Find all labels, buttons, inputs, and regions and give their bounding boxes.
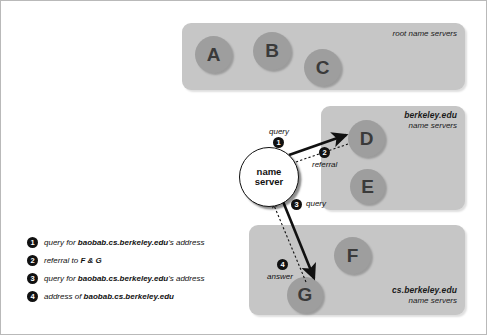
node-g: G	[287, 277, 323, 313]
arrow-badge-3: 3	[291, 199, 302, 210]
legend-text-3: query for baobab.cs.berkeley.edu's addre…	[44, 274, 204, 283]
panel-cs-berkeley-sub: name servers	[353, 296, 457, 305]
legend-row-1: 1 query for baobab.cs.berkeley.edu's add…	[27, 233, 204, 251]
node-c: C	[304, 49, 341, 86]
node-b: B	[253, 32, 291, 70]
legend-badge-3: 3	[27, 273, 38, 284]
arrow-badge-3-text: 3	[294, 200, 298, 209]
arrow-label-3-text: query	[306, 199, 326, 208]
legend-badge-1-text: 1	[30, 238, 34, 247]
legend-text-2: referral to F & G	[44, 256, 102, 265]
arrow-badge-2: 2	[319, 147, 330, 158]
arrow-badge-1-text: 1	[276, 138, 280, 147]
arrow-label-1-text: query	[269, 127, 289, 136]
arrow-label-2-text: referral	[312, 160, 337, 169]
node-a: A	[195, 36, 232, 73]
arrow-label-3: query	[306, 199, 326, 208]
node-a-label: A	[207, 44, 221, 66]
arrow-label-4-text: answer	[267, 272, 293, 281]
legend-text-4-pre: address of	[44, 292, 84, 301]
panel-root-label: root name servers	[361, 29, 457, 38]
legend-badge-4: 4	[27, 291, 38, 302]
name-server-line2: server	[255, 177, 284, 187]
legend-badge-1: 1	[27, 237, 38, 248]
legend-text-4-bold: baobab.cs.berkeley.edu	[84, 292, 174, 301]
node-f-label: F	[347, 245, 359, 267]
legend-text-1-bold: baobab.cs.berkeley.edu	[78, 238, 168, 247]
legend-text-3-post: 's address	[168, 274, 204, 283]
legend-text-3-pre: query for	[44, 274, 78, 283]
legend-row-4: 4 address of baobab.cs.berkeley.edu	[27, 287, 204, 305]
panel-cs-berkeley-label: cs.berkeley.edu name servers	[353, 286, 457, 305]
legend-badge-4-text: 4	[30, 292, 34, 301]
node-c-label: C	[316, 57, 330, 79]
arrow-label-4: answer	[267, 272, 293, 281]
legend-text-1: query for baobab.cs.berkeley.edu's addre…	[44, 238, 204, 247]
legend-badge-3-text: 3	[30, 274, 34, 283]
node-d-label: D	[360, 128, 374, 150]
legend-text-1-post: 's address	[168, 238, 204, 247]
legend-text-2-bold: F & G	[80, 256, 101, 265]
dns-query-diagram: root name servers A B C berkeley.edu nam…	[0, 0, 487, 335]
node-e: E	[350, 169, 385, 204]
legend-row-2: 2 referral to F & G	[27, 251, 204, 269]
legend-text-1-pre: query for	[44, 238, 78, 247]
node-b-label: B	[265, 40, 279, 62]
node-e-label: E	[361, 176, 374, 198]
arrow-badge-4: 4	[277, 259, 288, 270]
legend-badge-2: 2	[27, 255, 38, 266]
legend-text-4: address of baobab.cs.berkeley.edu	[44, 292, 174, 301]
arrow-label-2: referral	[312, 160, 337, 169]
legend-text-3-bold: baobab.cs.berkeley.edu	[78, 274, 168, 283]
legend-text-2-pre: referral to	[44, 256, 80, 265]
arrow-badge-2-text: 2	[322, 148, 326, 157]
legend-row-3: 3 query for baobab.cs.berkeley.edu's add…	[27, 269, 204, 287]
legend: 1 query for baobab.cs.berkeley.edu's add…	[27, 233, 204, 305]
panel-cs-berkeley-domain: cs.berkeley.edu	[353, 286, 457, 296]
arrow-badge-1: 1	[273, 137, 284, 148]
node-g-label: G	[298, 284, 313, 306]
node-f: F	[334, 237, 371, 274]
node-d: D	[348, 120, 385, 157]
arrow-badge-4-text: 4	[280, 260, 284, 269]
legend-badge-2-text: 2	[30, 256, 34, 265]
name-server-node: name server	[239, 147, 299, 207]
panel-root-label-text: root name servers	[393, 29, 457, 38]
panel-berkeley-domain: berkeley.edu	[359, 111, 457, 121]
arrow-label-1: query	[269, 127, 289, 136]
